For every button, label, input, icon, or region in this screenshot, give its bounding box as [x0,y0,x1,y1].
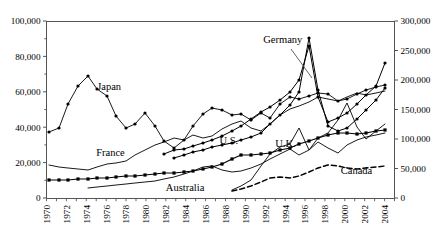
series-marker-germany-alt [326,124,329,127]
series-marker-us [76,177,79,180]
series-marker-japan [230,113,233,116]
series-marker-us [364,131,367,134]
chart-container: 020,00040,00060,00080,000100,000 050,000… [0,0,441,252]
series-marker-germany-alt [191,150,194,153]
series-marker-us [47,178,50,181]
series-marker-germany-alt [278,113,281,116]
series-marker-germany [182,147,185,150]
y-tick-label-right: 100,000 [401,134,431,144]
series-marker-us [143,173,146,176]
series-marker-germany-alt [316,88,319,91]
y-tick-label-left: 80,000 [15,52,41,62]
series-marker-japan [133,122,136,125]
series-marker-us [268,151,271,154]
series-marker-japan [162,139,165,142]
y-tick-label-right: 250,000 [401,46,431,56]
time-series-chart: 020,00040,00060,00080,000100,000 050,000… [0,0,441,252]
x-tick-label: 1980 [141,205,151,224]
series-marker-us [239,153,242,156]
y-tick-label-left: 40,000 [15,123,41,133]
series-label-germany: Germany [263,34,303,45]
series-label-japan: Japan [97,81,122,92]
series-marker-japan [86,74,89,77]
series-marker-japan [336,99,339,102]
series-marker-germany-alt [172,156,175,159]
series-marker-germany-alt [383,86,386,89]
series-marker-germany-alt [364,108,367,111]
series-marker-us [172,171,175,174]
series-marker-japan [153,124,156,127]
series-marker-germany-alt [307,36,310,39]
series-marker-germany-alt [355,117,358,120]
series-marker-germany [278,98,281,101]
series-label-france: France [96,147,125,158]
series-marker-us [355,132,358,135]
series-marker-germany-alt [268,122,271,125]
series-marker-us [383,128,386,131]
series-marker-us [162,171,165,174]
x-tick-label: 1984 [181,205,191,224]
x-tick-label: 1992 [261,205,271,224]
series-marker-japan [326,92,329,95]
series-marker-japan [383,83,386,86]
x-tick-label: 1970 [42,205,52,224]
series-marker-germany [201,141,204,144]
series-marker-japan [278,102,281,105]
x-tick-label: 1996 [300,205,310,224]
series-marker-japan [57,126,60,129]
series-marker-us [153,172,156,175]
series-marker-us [220,162,223,165]
series-marker-us [191,169,194,172]
series-marker-germany [172,148,175,151]
series-marker-us [105,176,108,179]
series-marker-germany [239,124,242,127]
series-marker-japan [201,112,204,115]
series-marker-japan [268,116,271,119]
series-marker-us [57,178,60,181]
series-marker-japan [66,102,69,105]
series-marker-germany [364,93,367,96]
series-marker-us [230,157,233,160]
series-marker-germany-alt [297,90,300,93]
series-marker-germany [326,120,329,123]
series-marker-germany [268,105,271,108]
x-tick-label: 1988 [221,205,231,224]
series-marker-us [249,153,252,156]
x-tick-label: 1974 [82,205,92,224]
series-marker-germany-alt [239,138,242,141]
x-tick-label: 2002 [360,205,370,224]
series-marker-japan [239,112,242,115]
series-marker-us [66,178,69,181]
series-marker-germany-alt [259,131,262,134]
y-tick-label-left: 20,000 [15,158,41,168]
series-marker-germany [210,138,213,141]
series-marker-germany [345,111,348,114]
series-marker-us [95,176,98,179]
series-marker-japan [124,126,127,129]
series-marker-us [374,129,377,132]
series-label-australia: Australia [166,182,205,193]
x-tick-label: 1972 [62,205,72,224]
series-marker-us [124,174,127,177]
series-marker-japan [114,114,117,117]
y-tick-label-left: 0 [36,193,41,203]
series-marker-japan [345,97,348,100]
series-marker-germany [316,95,319,98]
series-marker-germany [162,152,165,155]
series-label-canada: Canada [341,165,373,176]
series-marker-japan [182,138,185,141]
x-tick-label: 1994 [281,205,291,224]
series-marker-us [326,133,329,136]
series-marker-germany [383,61,386,64]
series-marker-japan [307,94,310,97]
series-marker-germany [297,78,300,81]
series-marker-germany [259,110,262,113]
series-marker-japan [105,94,108,97]
y-tick-label-right: 200,000 [401,75,431,85]
series-marker-japan [297,97,300,100]
series-marker-germany [249,117,252,120]
series-marker-us [86,177,89,180]
series-marker-japan [210,106,213,109]
series-marker-germany [355,102,358,105]
x-tick-label: 2004 [380,205,390,224]
